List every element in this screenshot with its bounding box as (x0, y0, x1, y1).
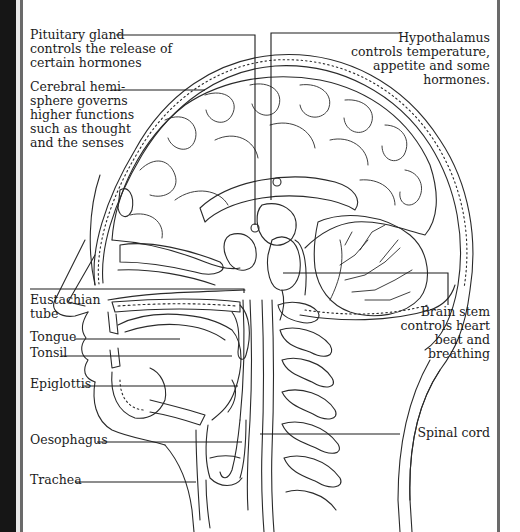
tongue-inner (125, 324, 225, 340)
label-tonsil: Tonsil (30, 346, 67, 360)
label-hypothalamus: Hypothalamus controls temperature, appet… (351, 31, 490, 87)
frontal-sinus (118, 189, 133, 217)
neck-front (165, 445, 194, 532)
epiglottis-flap (228, 380, 235, 412)
label-cerebral-hemisphere: Cerebral hemi- sphere governs higher fun… (30, 80, 134, 150)
skull-diploe-dots (98, 60, 467, 288)
label-oesophagus: Oesophagus (30, 433, 108, 447)
upper-teeth (108, 312, 118, 334)
mandible (112, 368, 166, 418)
hard-palate (112, 299, 240, 312)
label-tongue: Tongue (30, 330, 76, 344)
cerebral-gyri (130, 84, 422, 238)
label-epiglottis: Epiglottis (30, 377, 91, 391)
oesophagus-tube (220, 420, 240, 478)
label-trachea: Trachea (30, 473, 82, 487)
label-spinal-cord: Spinal cord (417, 426, 490, 440)
label-pituitary-gland: Pituitary gland controls the release of … (30, 28, 172, 70)
brain-stem (280, 290, 284, 320)
spinal-cord (262, 300, 264, 532)
thalamus (257, 204, 296, 245)
tongue-outline (118, 314, 241, 420)
trachea-back (206, 480, 210, 528)
skull-outer-outline (94, 55, 473, 500)
trachea-front (196, 430, 200, 520)
label-brain-stem: Brain stem controls heart beat and breat… (401, 305, 490, 361)
forehead-profile (90, 175, 100, 285)
pineal-region (273, 178, 281, 186)
lower-teeth (110, 348, 120, 368)
sphenoid-sinus (224, 234, 256, 271)
cervical-vertebrae (278, 302, 341, 510)
neck-back-inner (398, 360, 430, 532)
cerebellum-arbor-vitae (330, 225, 412, 300)
nasal-concha-lower (118, 270, 215, 285)
spinal-cord-back (272, 300, 274, 532)
oesophagus-wall (240, 420, 246, 478)
geniohyoid (150, 400, 205, 425)
palate-dots (118, 304, 236, 306)
lips-profile (82, 312, 95, 382)
mandible-dots (120, 380, 145, 410)
label-eustachian-tube: Eustachian tube (30, 293, 101, 321)
